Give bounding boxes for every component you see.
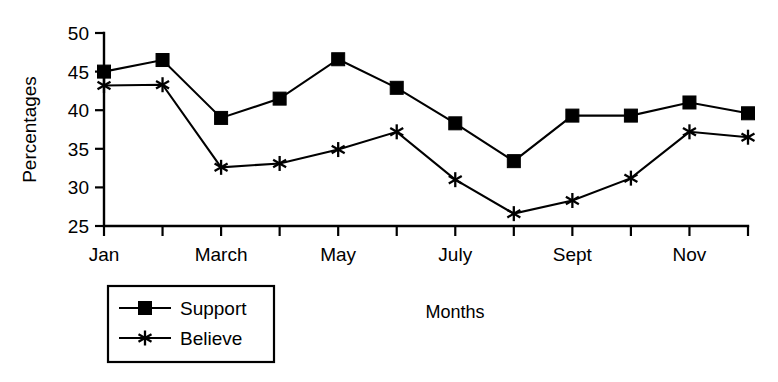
data-point-marker-square xyxy=(624,109,637,122)
data-point-marker-square xyxy=(566,109,579,122)
data-point-marker-square xyxy=(139,302,152,315)
data-point-marker-square xyxy=(390,81,403,94)
x-tick-label: Nov xyxy=(673,244,707,265)
x-axis-ticks: JanMarchMayJulySeptNov xyxy=(89,226,748,265)
legend-label: Support xyxy=(180,298,247,319)
data-point-marker-square xyxy=(98,65,111,78)
axes-group xyxy=(104,33,748,226)
series-line-support xyxy=(104,59,748,161)
y-tick-label: 40 xyxy=(68,100,89,121)
legend-label: Believe xyxy=(180,328,242,349)
data-point-marker-asterisk xyxy=(390,124,403,139)
data-point-marker-square xyxy=(332,53,345,66)
data-point-marker-square xyxy=(507,155,520,168)
data-point-marker-square xyxy=(449,117,462,130)
legend-item-support[interactable]: Support xyxy=(119,298,247,319)
y-axis-title: Percentages xyxy=(19,76,40,183)
x-tick-label: Jan xyxy=(89,244,120,265)
x-tick-label: Sept xyxy=(553,244,593,265)
y-tick-label: 50 xyxy=(68,23,89,44)
series-support xyxy=(98,53,755,168)
data-point-marker-square xyxy=(273,92,286,105)
data-point-marker-square xyxy=(742,107,755,120)
chart-container: 253035404550JanMarchMayJulySeptNovPercen… xyxy=(0,0,778,382)
x-axis-title: Months xyxy=(425,302,484,322)
axis-lines xyxy=(104,33,748,226)
data-point-marker-square xyxy=(156,54,169,67)
data-point-marker-asterisk xyxy=(624,171,637,186)
y-axis-ticks: 253035404550 xyxy=(68,23,104,237)
x-tick-label: July xyxy=(438,244,472,265)
line-chart: 253035404550JanMarchMayJulySeptNovPercen… xyxy=(0,0,778,382)
data-point-marker-asterisk xyxy=(449,172,462,187)
x-tick-label: May xyxy=(320,244,356,265)
legend: SupportBelieve xyxy=(108,286,274,362)
y-tick-label: 45 xyxy=(68,62,89,83)
data-point-marker-square xyxy=(683,96,696,109)
y-tick-label: 30 xyxy=(68,177,89,198)
y-tick-label: 35 xyxy=(68,139,89,160)
series-believe xyxy=(98,77,755,221)
y-tick-label: 25 xyxy=(68,216,89,237)
legend-item-believe[interactable]: Believe xyxy=(119,328,242,349)
x-tick-label: March xyxy=(195,244,248,265)
series-line-believe xyxy=(104,85,748,214)
data-point-marker-square xyxy=(215,111,228,124)
